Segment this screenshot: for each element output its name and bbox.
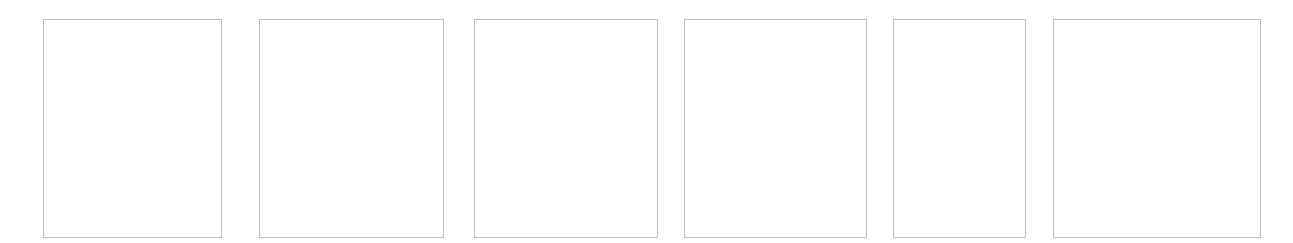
empty-panel-4: [684, 19, 867, 238]
empty-panel-2: [259, 19, 444, 238]
empty-panel-1: [43, 19, 222, 238]
empty-panel-3: [474, 19, 658, 238]
empty-panel-5: [893, 19, 1026, 238]
empty-panel-6: [1053, 19, 1261, 238]
